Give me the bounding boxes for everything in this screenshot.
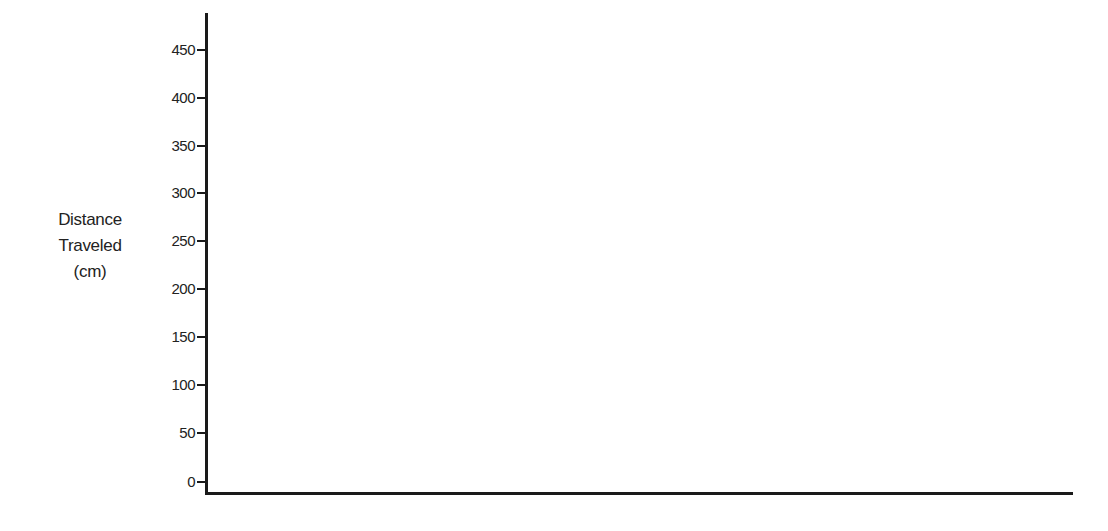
y-tick-mark	[197, 192, 205, 194]
y-tick-label: 300	[171, 183, 195, 203]
y-tick-250: 250	[0, 231, 205, 251]
y-tick-450: 450	[0, 40, 205, 60]
y-tick-300: 300	[0, 183, 205, 203]
y-tick-label: 100	[171, 375, 195, 395]
y-tick-mark	[197, 384, 205, 386]
y-tick-mark	[197, 49, 205, 51]
y-tick-mark	[197, 432, 205, 434]
y-tick-100: 100	[0, 375, 205, 395]
y-axis	[205, 13, 208, 495]
y-tick-mark	[197, 240, 205, 242]
y-tick-50: 50	[0, 423, 205, 443]
y-tick-label: 400	[171, 88, 195, 108]
x-axis	[205, 492, 1073, 495]
y-tick-150: 150	[0, 327, 205, 347]
y-tick-400: 400	[0, 88, 205, 108]
y-tick-label: 200	[171, 279, 195, 299]
y-tick-label: 50	[179, 423, 195, 443]
y-tick-mark	[197, 145, 205, 147]
y-tick-label: 250	[171, 231, 195, 251]
y-tick-350: 350	[0, 136, 205, 156]
y-axis-label-line-1: Distance	[40, 207, 140, 233]
y-tick-label: 450	[171, 40, 195, 60]
y-tick-label: 350	[171, 136, 195, 156]
y-tick-mark	[197, 288, 205, 290]
y-tick-mark	[197, 336, 205, 338]
y-tick-label: 0	[187, 472, 195, 492]
y-tick-0: 0	[0, 472, 205, 492]
y-tick-mark	[197, 481, 205, 483]
y-tick-label: 150	[171, 327, 195, 347]
y-tick-mark	[197, 97, 205, 99]
y-tick-200: 200	[0, 279, 205, 299]
